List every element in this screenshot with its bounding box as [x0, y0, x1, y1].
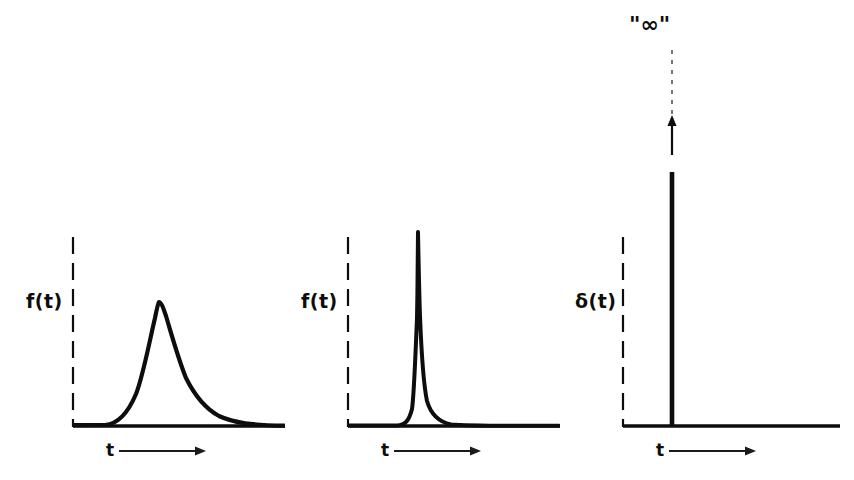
t-axis-arrow-head — [470, 447, 481, 456]
delta-function-figure: f(t) t f(t) t — [0, 0, 854, 480]
broad-pulse-plot — [0, 0, 285, 480]
panel-broad-pulse: f(t) t — [0, 0, 285, 480]
impulse-arrow-head — [667, 115, 676, 126]
t-axis-arrow-head — [195, 447, 206, 456]
narrow-pulse-plot — [275, 0, 560, 480]
infinity-amplitude-label: "∞" — [629, 14, 670, 36]
panel-narrow-pulse: f(t) t — [275, 0, 560, 480]
panel-dirac-delta: "∞" δ(t) t — [552, 0, 837, 480]
x-axis-label: t — [381, 442, 389, 459]
x-axis-label: t — [106, 442, 114, 459]
narrow-pulse-curve — [349, 232, 559, 426]
broad-pulse-curve — [74, 302, 284, 426]
x-axis-label: t — [656, 442, 664, 459]
y-axis-label: f(t) — [301, 292, 338, 311]
y-axis-label: f(t) — [26, 292, 63, 311]
y-axis-label: δ(t) — [575, 292, 617, 311]
t-axis-arrow-head — [745, 447, 756, 456]
dirac-delta-plot — [552, 0, 854, 480]
